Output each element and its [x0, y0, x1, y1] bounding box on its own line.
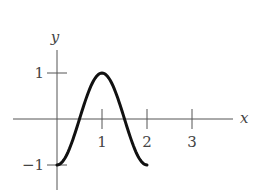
y-axis-label: y [50, 28, 60, 46]
y-tick-label: 1 [34, 64, 44, 82]
x-tick-label: 2 [142, 133, 152, 151]
x-tick-label: 3 [187, 133, 197, 151]
y-tick-label: −1 [22, 156, 44, 174]
x-axis-label: x [240, 109, 249, 127]
x-tick-label: 1 [97, 133, 107, 151]
function-graph: 1231−1 x y [0, 0, 267, 192]
axes [13, 50, 233, 190]
